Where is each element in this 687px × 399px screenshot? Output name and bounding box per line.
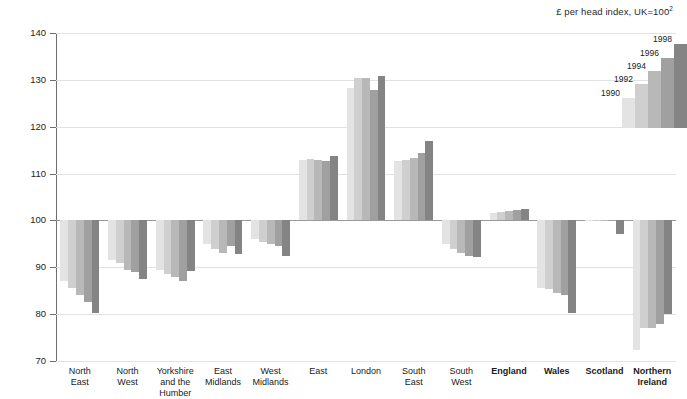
bar [465, 220, 473, 255]
gridline [56, 361, 676, 362]
bar [553, 220, 561, 293]
bar [139, 220, 147, 279]
bar [648, 220, 656, 328]
x-axis-label-line: Ireland [622, 377, 682, 388]
legend-swatch [674, 44, 687, 128]
legend-label: 1992 [589, 75, 633, 84]
bar [347, 88, 355, 220]
bar-group [251, 33, 290, 361]
bar [84, 220, 92, 302]
legend-swatch [635, 84, 648, 128]
y-axis-tick-label: 120 [14, 122, 46, 132]
legend-swatch [622, 98, 635, 128]
bar-group [60, 33, 99, 361]
bar-group [108, 33, 147, 361]
chart-title: £ per head index, UK=1002 [556, 6, 673, 17]
bar-group [442, 33, 481, 361]
y-axis-tick-label: 110 [14, 169, 46, 179]
bar [568, 220, 576, 313]
bar [156, 220, 164, 269]
x-axis-label-line: Midlands [241, 377, 301, 388]
bar [60, 220, 68, 281]
bar [267, 220, 275, 243]
bar [76, 220, 84, 295]
y-axis-tick-label: 100 [14, 215, 46, 225]
bar [164, 220, 172, 274]
legend-label: 1998 [628, 35, 672, 44]
bar [418, 153, 426, 220]
bar-group [537, 33, 576, 361]
chart-title-footnote-marker: 2 [669, 5, 673, 12]
bar [585, 220, 593, 221]
chart-legend: 19901992199419961998 [598, 43, 676, 128]
bar [227, 220, 235, 245]
bar [108, 220, 116, 260]
bar [490, 213, 498, 220]
bar [473, 220, 481, 256]
bar [179, 220, 187, 281]
y-axis-tick-label: 140 [14, 28, 46, 38]
bar [314, 160, 322, 220]
x-axis-label-line: Northern [622, 366, 682, 377]
y-axis-tick-label: 80 [14, 309, 46, 319]
bar [251, 220, 259, 239]
bar [322, 161, 330, 221]
bar [545, 220, 553, 289]
bar [593, 220, 601, 221]
bar [505, 211, 513, 221]
bar [457, 220, 465, 253]
bar [497, 212, 505, 220]
bar-group [203, 33, 242, 361]
bar [442, 220, 450, 243]
x-axis-label-line: Humber [145, 388, 205, 399]
bar [640, 220, 648, 328]
bar [656, 220, 664, 324]
bar [410, 158, 418, 221]
bar-group [156, 33, 195, 361]
bar [425, 141, 433, 221]
bar [259, 220, 267, 242]
legend-label: 1994 [602, 62, 646, 71]
y-axis-tick-label: 70 [14, 356, 46, 366]
bar [537, 220, 545, 288]
y-axis-tick-label: 130 [14, 75, 46, 85]
bar [203, 220, 211, 243]
bar [402, 160, 410, 220]
bar [362, 78, 370, 221]
bar [219, 220, 227, 253]
bar [394, 161, 402, 221]
bar-group [299, 33, 338, 361]
x-axis-label: NorthernIreland [622, 366, 682, 388]
bar-group [347, 33, 386, 361]
bar [124, 220, 132, 269]
bar [378, 76, 386, 220]
bar-group [490, 33, 529, 361]
bar [235, 220, 243, 254]
legend-swatch [648, 71, 661, 128]
bar [299, 160, 307, 221]
bar [608, 220, 616, 221]
bar [633, 220, 641, 350]
bar [330, 156, 338, 221]
bar [68, 220, 76, 288]
chart-title-text: £ per head index, UK=100 [556, 6, 669, 17]
bar [187, 220, 195, 271]
legend-label: 1996 [615, 49, 659, 58]
bar [275, 220, 283, 246]
y-axis-tick-label: 90 [14, 262, 46, 272]
bar [307, 159, 315, 220]
bar [370, 90, 378, 220]
bar [282, 220, 290, 255]
bar [171, 220, 179, 276]
bar [521, 209, 529, 220]
bar [116, 220, 124, 262]
bar [450, 220, 458, 248]
bar [616, 220, 624, 233]
bar [513, 210, 521, 220]
bar [664, 220, 672, 314]
legend-label: 1990 [576, 89, 620, 98]
bar [601, 220, 609, 221]
bar [131, 220, 139, 272]
bar [92, 220, 100, 313]
